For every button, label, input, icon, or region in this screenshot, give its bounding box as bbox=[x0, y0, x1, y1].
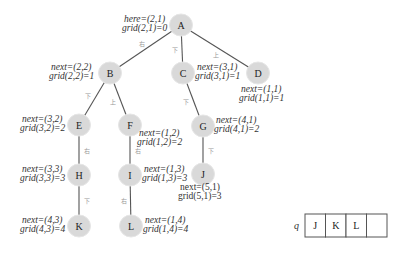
annotation-B: next=(2,2)grid(2,2)=1 bbox=[49, 62, 94, 82]
annotation-grid: grid(3,1)=1 bbox=[195, 71, 240, 82]
annotation-grid: grid(4,1)=2 bbox=[214, 124, 259, 135]
edge-label: 上 bbox=[110, 98, 116, 105]
edge-label: 右 bbox=[135, 147, 141, 155]
tree-node-K: K bbox=[68, 215, 91, 237]
edge-label: 下 bbox=[172, 46, 178, 54]
annotation-grid: grid(1,2)=2 bbox=[137, 137, 182, 148]
annotation-grid: grid(4,3)=4 bbox=[20, 224, 65, 235]
tree-node-A: A bbox=[170, 14, 193, 36]
node-label: J bbox=[201, 169, 205, 180]
annotation-L: next=(1,4)grid(1,4)=4 bbox=[143, 215, 188, 235]
node-label: K bbox=[75, 221, 83, 232]
edge-label: 下 bbox=[183, 98, 189, 106]
edge-label: 下 bbox=[84, 197, 90, 205]
edge-label: 右 bbox=[121, 197, 127, 205]
queue-cell-box bbox=[367, 214, 388, 237]
tree-node-C: C bbox=[172, 62, 195, 84]
queue-label: q bbox=[294, 220, 299, 231]
node-label: A bbox=[177, 20, 185, 31]
tree-node-E: E bbox=[68, 114, 91, 136]
annotation-G: next=(4,1)grid(4,1)=2 bbox=[214, 115, 259, 135]
queue-cell bbox=[367, 214, 388, 237]
annotation-C: next=(3,1)grid(3,1)=1 bbox=[195, 62, 240, 82]
node-label: I bbox=[128, 170, 131, 181]
queue-cell-value: K bbox=[332, 220, 340, 231]
node-label: F bbox=[127, 120, 133, 131]
queue-cell-value: L bbox=[353, 220, 359, 231]
node-label: C bbox=[180, 68, 187, 79]
annotation-grid: grid(3,3)=3 bbox=[20, 173, 65, 184]
tree-node-H: H bbox=[68, 164, 91, 186]
annotation-grid: grid(1,4)=4 bbox=[143, 224, 188, 235]
annotation-J: next=(5,1)grid(5,1)=3 bbox=[178, 182, 222, 202]
annotation-E: next=(3,2)grid(3,2)=2 bbox=[20, 114, 65, 134]
node-label: B bbox=[107, 68, 114, 79]
tree-node-D: D bbox=[247, 62, 270, 84]
annotation-I: next=(1,3)grid(1,3)=3 bbox=[142, 164, 187, 184]
annotation-grid: grid(2,2)=1 bbox=[49, 71, 94, 82]
annotation-D: next=(1,1)grid(1,1)=1 bbox=[239, 84, 284, 104]
edge-label: 下 bbox=[208, 147, 214, 155]
node-label: E bbox=[76, 120, 82, 131]
search-tree-diagram: 右下上下上下右右下下右 ABCDEFGHIJKL here=(2,1)grid(… bbox=[0, 0, 399, 253]
annotation-grid: grid(2,1)=0 bbox=[122, 23, 167, 34]
tree-node-G: G bbox=[192, 115, 215, 137]
annotation-grid: grid(3,2)=2 bbox=[20, 123, 65, 134]
annotation-H: next=(3,3)grid(3,3)=3 bbox=[20, 164, 65, 184]
tree-node-B: B bbox=[99, 62, 122, 84]
edge-label: 下 bbox=[85, 92, 91, 100]
tree-node-L: L bbox=[120, 215, 143, 237]
annotation-grid: grid(1,1)=1 bbox=[239, 93, 284, 104]
node-label: D bbox=[254, 68, 261, 79]
tree-node-I: I bbox=[119, 164, 142, 186]
annotation-grid: grid(5,1)=3 bbox=[178, 191, 222, 202]
edge-label: 上 bbox=[213, 51, 219, 58]
annotation-K: next=(4,3)grid(4,3)=4 bbox=[20, 215, 65, 235]
node-label: G bbox=[199, 121, 206, 132]
queue-cell: J bbox=[305, 214, 326, 237]
queue-cells: JKL bbox=[305, 214, 387, 237]
queue-cell-value: J bbox=[313, 220, 317, 231]
queue-cell: K bbox=[326, 214, 347, 237]
edge-label: 右 bbox=[139, 40, 145, 48]
node-label: H bbox=[75, 170, 82, 181]
edge-label: 右 bbox=[84, 147, 90, 155]
queue-cell: L bbox=[346, 214, 367, 237]
annotation-F: next=(1,2)grid(1,2)=2 bbox=[137, 128, 182, 148]
node-label: L bbox=[128, 221, 134, 232]
annotation-A: here=(2,1)grid(2,1)=0 bbox=[122, 14, 167, 34]
annotations-layer: here=(2,1)grid(2,1)=0next=(2,2)grid(2,2)… bbox=[20, 14, 284, 235]
queue: q JKL bbox=[294, 214, 387, 237]
